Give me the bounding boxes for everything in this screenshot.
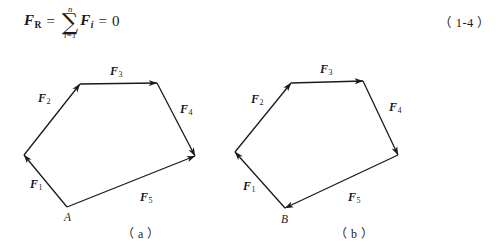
force-vector-F3 [80, 83, 157, 84]
force-label-F3: F3 [110, 65, 123, 79]
force-label-F4: F4 [389, 101, 402, 115]
point-label-A: A [64, 212, 71, 224]
force-vector-F4 [157, 83, 195, 156]
force-label-F3: F3 [320, 63, 333, 77]
force-label-F5: F5 [140, 191, 153, 205]
force-polygon-svg [0, 0, 504, 245]
caption-figure-b: （ b ） [335, 228, 374, 240]
force-vector-F5 [67, 156, 195, 207]
force-label-F1: F1 [243, 180, 256, 194]
force-vector-F5 [285, 155, 398, 208]
force-vector-F2 [24, 84, 80, 155]
force-label-F5: F5 [348, 191, 361, 205]
force-label-F2: F2 [251, 93, 264, 107]
figure-page: FR = n ∑ i=1 Fi = 0 （ 1-4 ） F1F2F3F4F5A（… [0, 0, 504, 245]
force-polygon-figures: F1F2F3F4F5A（ a ）F1F2F3F4F5B（ b ） [0, 0, 504, 245]
force-vector-F3 [291, 81, 363, 83]
force-vector-F4 [363, 81, 398, 155]
caption-figure-a: （ a ） [122, 228, 160, 240]
force-label-F2: F2 [38, 92, 51, 106]
force-label-F1: F1 [30, 178, 43, 192]
point-label-B: B [281, 214, 288, 226]
force-label-F4: F4 [180, 103, 193, 117]
